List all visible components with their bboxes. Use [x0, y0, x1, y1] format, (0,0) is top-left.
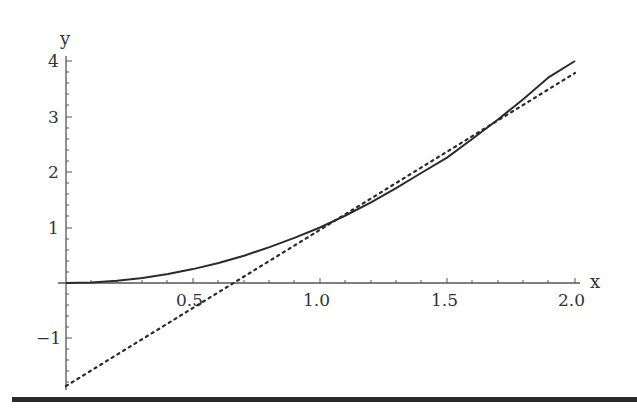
y-tick-label: 4: [48, 51, 59, 71]
x-tick-label: 0.5: [176, 290, 203, 310]
bottom-rule: [12, 397, 637, 402]
y-axis-label: y: [59, 28, 71, 49]
chart-canvas: 0.5 1.0 1.5 2.0 4 3 2 1 −1 y x: [0, 0, 637, 411]
x-ticks: [91, 278, 575, 283]
y-tick-label: 3: [48, 107, 59, 127]
x-tick-label: 1.5: [431, 290, 458, 310]
solid-curve: [66, 61, 575, 283]
dotted-line: [66, 73, 575, 386]
x-tick-label: 1.0: [303, 290, 330, 310]
y-tick-label: −1: [36, 328, 61, 348]
y-ticks: [66, 61, 72, 382]
y-tick-label: 1: [48, 218, 59, 238]
x-tick-label: 2.0: [558, 290, 585, 310]
x-axis-label: x: [590, 271, 600, 292]
y-tick-label: 2: [48, 162, 59, 182]
